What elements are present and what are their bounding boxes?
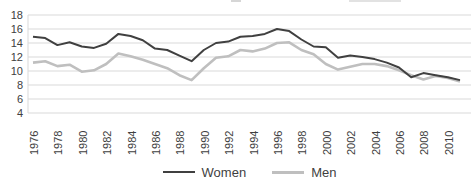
women-line-swatch [163, 171, 195, 173]
legend: Women Men [28, 162, 471, 182]
legend-label-women: Women [202, 165, 247, 180]
x-tick-label: 1980 [77, 131, 89, 155]
y-tick-label: 10 [11, 65, 23, 77]
line-chart: 4681012141618197619781980198219841986198… [0, 0, 471, 188]
legend-label-men: Men [311, 165, 336, 180]
legend-item-men: Men [272, 165, 336, 180]
x-tick-label: 1986 [150, 131, 162, 155]
x-tick-label: 1978 [52, 131, 64, 155]
y-tick-label: 14 [11, 37, 23, 49]
x-tick-label: 2004 [370, 131, 382, 155]
y-tick-label: 8 [17, 79, 23, 91]
x-tick-label: 1994 [248, 131, 260, 155]
x-tick-label: 1990 [199, 131, 211, 155]
x-tick-label: 1988 [174, 131, 186, 155]
y-tick-label: 6 [17, 93, 23, 105]
x-tick-label: 2002 [345, 131, 357, 155]
x-tick-label: 1992 [223, 131, 235, 155]
men-line-swatch [272, 171, 304, 174]
x-tick-label: 1996 [272, 131, 284, 155]
y-tick-label: 16 [11, 23, 23, 35]
legend-item-women: Women [163, 165, 247, 180]
x-tick-label: 1982 [101, 131, 113, 155]
y-tick-label: 12 [11, 51, 23, 63]
x-tick-label: 1976 [28, 131, 40, 155]
y-tick-label: 4 [17, 107, 23, 119]
x-tick-label: 2006 [394, 131, 406, 155]
women-series-line [33, 29, 460, 80]
y-tick-label: 18 [11, 9, 23, 21]
plot-area: 4681012141618197619781980198219841986198… [0, 0, 471, 188]
x-tick-label: 2008 [418, 131, 430, 155]
x-tick-label: 2000 [321, 131, 333, 155]
x-tick-label: 1984 [126, 131, 138, 155]
x-tick-label: 2010 [443, 131, 455, 155]
x-tick-label: 1998 [296, 131, 308, 155]
men-series-line [33, 42, 460, 81]
